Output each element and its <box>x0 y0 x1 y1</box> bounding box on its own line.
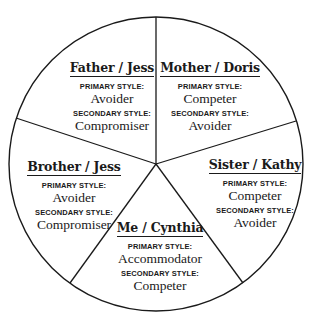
primary-style-value: Accommodator <box>106 251 214 266</box>
segment-sister: Sister / Kathy PRIMARY STYLE: Competer S… <box>207 155 303 230</box>
primary-style-label: PRIMARY STYLE: <box>158 82 262 91</box>
secondary-style-label: SECONDARY STYLE: <box>22 208 126 217</box>
primary-style-value: Competer <box>207 188 303 203</box>
primary-style-label: PRIMARY STYLE: <box>62 82 162 91</box>
segment-title: Father / Jess <box>70 61 154 77</box>
secondary-style-value: Avoider <box>207 215 303 230</box>
primary-style-label: PRIMARY STYLE: <box>22 181 126 190</box>
secondary-style-label: SECONDARY STYLE: <box>106 269 214 278</box>
secondary-style-value: Competer <box>106 278 214 293</box>
primary-style-value: Avoider <box>62 91 162 106</box>
segment-title: Brother / Jess <box>27 160 120 176</box>
secondary-style-label: SECONDARY STYLE: <box>158 109 262 118</box>
secondary-style-value: Compromiser <box>62 118 162 133</box>
secondary-style-label: SECONDARY STYLE: <box>207 206 303 215</box>
primary-style-label: PRIMARY STYLE: <box>106 242 214 251</box>
secondary-style-label: SECONDARY STYLE: <box>62 109 162 118</box>
primary-style-value: Competer <box>158 91 262 106</box>
segment-title: Me / Cynthia <box>117 221 204 237</box>
secondary-style-value: Compromiser <box>22 217 126 232</box>
segment-title: Sister / Kathy <box>209 158 302 174</box>
primary-style-value: Avoider <box>22 190 126 205</box>
segment-father: Father / Jess PRIMARY STYLE: Avoider SEC… <box>62 58 162 133</box>
segment-title: Mother / Doris <box>160 61 260 77</box>
secondary-style-value: Avoider <box>158 118 262 133</box>
segment-mother: Mother / Doris PRIMARY STYLE: Competer S… <box>158 58 262 133</box>
segment-brother: Brother / Jess PRIMARY STYLE: Avoider SE… <box>22 157 126 232</box>
primary-style-label: PRIMARY STYLE: <box>207 179 303 188</box>
